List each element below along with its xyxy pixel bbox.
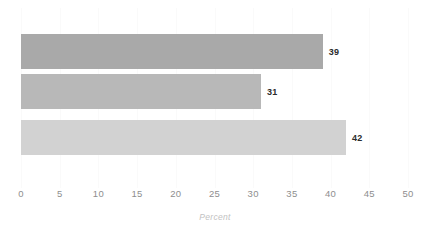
x-axis-title: Percent (0, 212, 430, 222)
gridline (408, 8, 409, 188)
bar-row: 42 (21, 120, 408, 155)
x-tick-label: 45 (364, 188, 375, 199)
bar-row: 31 (21, 74, 408, 109)
x-tick-label: 25 (209, 188, 220, 199)
x-axis: 05101520253035404550 (21, 188, 408, 208)
bar-value-label: 39 (329, 47, 339, 57)
x-tick-label: 0 (18, 188, 24, 199)
bar[interactable] (21, 120, 346, 155)
bar-value-label: 42 (352, 133, 362, 143)
x-tick-label: 35 (286, 188, 297, 199)
x-tick-label: 30 (248, 188, 259, 199)
bar[interactable] (21, 34, 323, 69)
bar-chart: 39 31 42 05101520253035404550 Percent (0, 0, 430, 240)
x-tick-label: 5 (57, 188, 63, 199)
bars-layer: 39 31 42 (21, 34, 408, 161)
bar[interactable] (21, 74, 261, 109)
x-tick-label: 10 (93, 188, 104, 199)
x-tick-label: 40 (325, 188, 336, 199)
bar-value-label: 31 (267, 87, 277, 97)
x-tick-label: 15 (132, 188, 143, 199)
x-tick-label: 50 (402, 188, 413, 199)
bar-row: 39 (21, 34, 408, 69)
x-tick-label: 20 (170, 188, 181, 199)
